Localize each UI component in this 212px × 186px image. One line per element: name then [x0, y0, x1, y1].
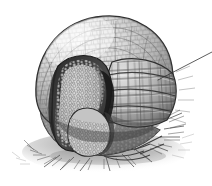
illustration-canvas: three-banded armadillo rolled into a bal…	[0, 0, 212, 186]
armadillo-illustration	[0, 0, 212, 186]
